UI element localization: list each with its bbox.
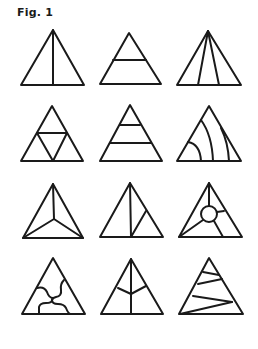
triangle-4 [21,106,83,161]
triangle-7 [23,184,83,238]
triangle-8 [100,183,163,237]
triangle-grid [0,0,258,349]
triangle-5 [100,105,162,161]
triangle-10 [22,258,85,314]
triangle-9 [179,183,242,237]
triangle-11 [101,259,163,314]
triangle-6 [177,106,241,161]
triangle-2 [100,33,161,84]
triangle-1 [21,30,84,85]
triangle-3 [177,31,241,85]
triangle-12 [179,258,243,314]
